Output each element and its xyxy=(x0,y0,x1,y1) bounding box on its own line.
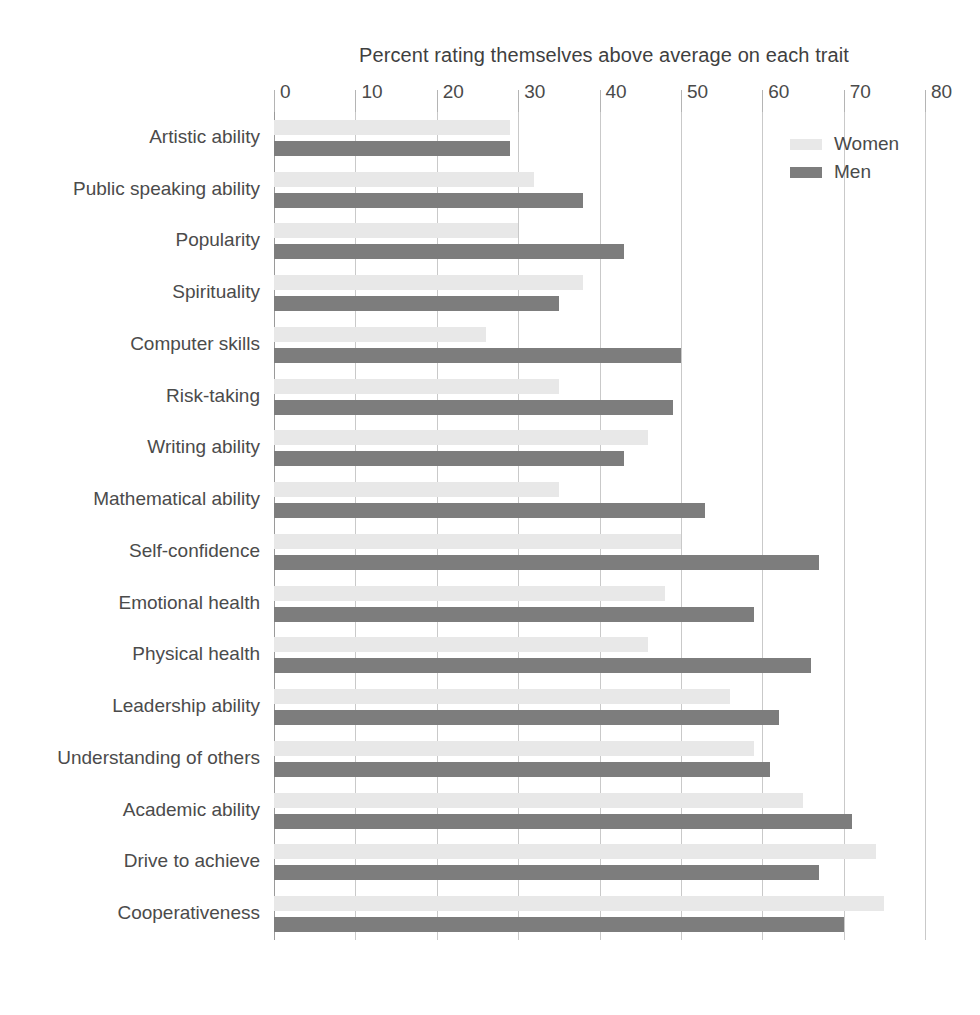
bar-men-14 xyxy=(274,865,819,880)
bar-women-12 xyxy=(274,741,754,756)
bar-men-4 xyxy=(274,348,681,363)
bar-women-13 xyxy=(274,793,803,808)
bar-men-13 xyxy=(274,814,852,829)
gridline-80 xyxy=(925,112,926,940)
x-tick-label-30: 30 xyxy=(518,81,545,103)
bar-women-1 xyxy=(274,172,534,187)
bar-men-3 xyxy=(274,296,559,311)
bar-women-14 xyxy=(274,844,876,859)
category-label-0: Artistic ability xyxy=(0,127,260,147)
legend-label-men: Men xyxy=(834,161,871,183)
category-label-5: Risk-taking xyxy=(0,386,260,406)
x-tick-label-70: 70 xyxy=(844,81,871,103)
bar-men-12 xyxy=(274,762,770,777)
bar-men-9 xyxy=(274,607,754,622)
bar-men-5 xyxy=(274,400,673,415)
legend: WomenMen xyxy=(790,130,960,186)
bar-women-0 xyxy=(274,120,510,135)
plot-area: 01020304050607080 xyxy=(274,112,925,940)
bar-men-0 xyxy=(274,141,510,156)
bar-women-8 xyxy=(274,534,681,549)
bar-men-8 xyxy=(274,555,819,570)
category-label-12: Understanding of others xyxy=(0,748,260,768)
bar-men-11 xyxy=(274,710,779,725)
bar-women-10 xyxy=(274,637,648,652)
bar-men-2 xyxy=(274,244,624,259)
category-label-15: Cooperativeness xyxy=(0,903,260,923)
category-label-3: Spirituality xyxy=(0,282,260,302)
bar-women-2 xyxy=(274,223,518,238)
legend-item-women[interactable]: Women xyxy=(790,130,960,158)
bar-men-1 xyxy=(274,193,583,208)
x-tick-label-40: 40 xyxy=(600,81,627,103)
bar-men-7 xyxy=(274,503,705,518)
chart-title: Percent rating themselves above average … xyxy=(274,44,934,67)
category-label-8: Self-confidence xyxy=(0,541,260,561)
category-label-11: Leadership ability xyxy=(0,696,260,716)
x-tick-label-0: 0 xyxy=(274,81,291,103)
category-label-9: Emotional health xyxy=(0,593,260,613)
category-label-7: Mathematical ability xyxy=(0,489,260,509)
bar-women-7 xyxy=(274,482,559,497)
x-tick-label-20: 20 xyxy=(437,81,464,103)
bar-women-3 xyxy=(274,275,583,290)
category-label-14: Drive to achieve xyxy=(0,851,260,871)
legend-swatch-men xyxy=(790,167,822,178)
x-tick-label-50: 50 xyxy=(681,81,708,103)
x-tick-label-10: 10 xyxy=(355,81,382,103)
category-label-2: Popularity xyxy=(0,230,260,250)
bar-women-4 xyxy=(274,327,486,342)
category-label-1: Public speaking ability xyxy=(0,179,260,199)
bar-men-10 xyxy=(274,658,811,673)
bar-chart-figure: Percent rating themselves above average … xyxy=(0,0,980,1015)
category-label-10: Physical health xyxy=(0,644,260,664)
category-axis-labels: Artistic abilityPublic speaking abilityP… xyxy=(0,112,268,940)
bar-women-9 xyxy=(274,586,665,601)
x-tick-label-80: 80 xyxy=(925,81,952,103)
category-label-13: Academic ability xyxy=(0,800,260,820)
legend-swatch-women xyxy=(790,139,822,150)
bar-men-6 xyxy=(274,451,624,466)
bar-women-6 xyxy=(274,430,648,445)
legend-label-women: Women xyxy=(834,133,899,155)
x-tick-label-60: 60 xyxy=(762,81,789,103)
bar-men-15 xyxy=(274,917,844,932)
legend-item-men[interactable]: Men xyxy=(790,158,960,186)
bar-women-15 xyxy=(274,896,884,911)
bar-women-11 xyxy=(274,689,730,704)
bar-women-5 xyxy=(274,379,559,394)
category-label-4: Computer skills xyxy=(0,334,260,354)
category-label-6: Writing ability xyxy=(0,437,260,457)
